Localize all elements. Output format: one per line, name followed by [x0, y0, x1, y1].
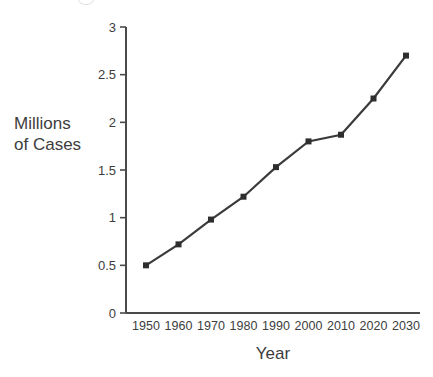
- x-axis-title: Year: [125, 344, 421, 364]
- x-tick-label: 2020: [360, 319, 388, 333]
- data-point-marker: [338, 132, 344, 138]
- x-tick-label: 1990: [262, 319, 290, 333]
- y-tick-label: 0: [109, 306, 116, 321]
- data-point-marker: [241, 194, 247, 200]
- x-tick-label: 2010: [327, 319, 355, 333]
- data-point-marker: [208, 217, 214, 223]
- data-point-marker: [403, 53, 409, 59]
- x-tick-label: 1950: [132, 319, 160, 333]
- data-markers: [143, 53, 409, 269]
- x-tick-label: 1960: [165, 319, 193, 333]
- y-tick-label: 3: [109, 20, 116, 35]
- data-point-marker: [176, 241, 182, 247]
- x-tick-label: 2000: [295, 319, 323, 333]
- series-line: [146, 56, 406, 266]
- y-tick-label: 2: [109, 115, 116, 130]
- data-point-marker: [306, 138, 312, 144]
- y-tick-label: 0.5: [98, 258, 116, 273]
- data-point-marker: [371, 96, 377, 102]
- data-point-marker: [143, 262, 149, 268]
- y-axis-ticks: 00.511.522.53: [98, 20, 126, 321]
- x-tick-label: 1970: [197, 319, 225, 333]
- x-tick-label: 1980: [230, 319, 258, 333]
- y-tick-label: 1: [109, 210, 116, 225]
- data-point-marker: [273, 164, 279, 170]
- y-tick-label: 1.5: [98, 163, 116, 178]
- x-tick-label: 2030: [392, 319, 420, 333]
- data-series: [146, 56, 406, 266]
- line-chart-figure: Millions of Cases 00.511.522.53 19501960…: [0, 0, 433, 377]
- x-axis-ticks: 195019601970198019902000201020202030: [132, 319, 420, 333]
- plot-area: 00.511.522.53 19501960197019801990200020…: [0, 0, 433, 377]
- y-tick-label: 2.5: [98, 67, 116, 82]
